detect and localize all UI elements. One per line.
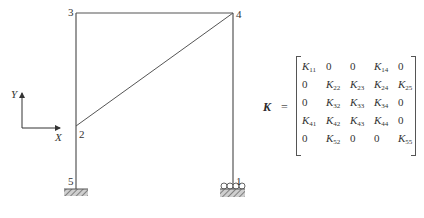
node-label-1: 1: [236, 175, 242, 187]
matrix-cell: K43: [350, 114, 364, 128]
matrix-cell: K55: [398, 132, 412, 146]
matrix-cell: K44: [374, 114, 388, 128]
matrix-cell: K25: [398, 78, 412, 92]
fixed-support-icon: [64, 189, 88, 196]
matrix-cell: 0: [302, 96, 308, 108]
left-bracket: [296, 56, 301, 156]
matrix-symbol: K: [263, 100, 271, 115]
matrix-cell: K22: [326, 78, 340, 92]
matrix-row: K1100K140: [302, 60, 414, 78]
matrix-cell: 0: [398, 114, 404, 126]
node-label-3: 3: [68, 6, 74, 18]
y-axis-label: Y: [11, 88, 17, 100]
matrix-row: 0K22K23K24K25: [302, 78, 414, 96]
matrix-cell: K52: [326, 132, 340, 146]
x-axis-label: X: [55, 131, 62, 143]
matrix-row: 0K5200K55: [302, 132, 414, 150]
members: [76, 13, 233, 190]
matrix-cell: 0: [398, 60, 404, 72]
matrix-cell: 0: [302, 132, 308, 144]
matrix-cell: K11: [302, 60, 316, 74]
matrix-cell: 0: [374, 132, 380, 144]
stiffness-matrix: K1100K1400K22K23K24K250K32K33K340K41K42K…: [296, 56, 416, 154]
matrix-cell: 0: [326, 60, 332, 72]
matrix-cell: K14: [374, 60, 388, 74]
matrix-cell: 0: [398, 96, 404, 108]
node-label-2: 2: [79, 128, 85, 140]
matrix-cell: K42: [326, 114, 340, 128]
matrix-cell: 0: [350, 132, 356, 144]
matrix-cell: 0: [350, 60, 356, 72]
equals-sign: =: [281, 100, 288, 115]
coordinate-axes: [22, 93, 60, 128]
node-label-5: 5: [68, 175, 74, 187]
member-2-4: [76, 13, 233, 126]
matrix-cell: K32: [326, 96, 340, 110]
matrix-cell: K34: [374, 96, 388, 110]
matrix-row: 0K32K33K340: [302, 96, 414, 114]
matrix-cell: K23: [350, 78, 364, 92]
matrix-cell: K33: [350, 96, 364, 110]
matrix-row: K41K42K43K440: [302, 114, 414, 132]
matrix-cell: 0: [302, 78, 308, 90]
matrix-cell: K24: [374, 78, 388, 92]
node-label-4: 4: [236, 8, 242, 20]
matrix-cell: K41: [302, 114, 316, 128]
